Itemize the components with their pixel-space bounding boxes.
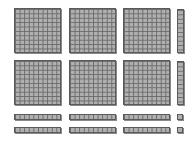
tens-rod [69,127,116,133]
ones-cube [177,114,183,120]
hundreds-flat [69,8,116,53]
hundreds-flat [123,60,170,105]
hundreds-flat [69,60,116,105]
tens-rod [123,127,170,133]
hundreds-flat [123,8,170,53]
ones-cube [177,127,183,133]
tens-rod [69,114,116,120]
hundreds-flat [14,60,61,105]
hundreds-flat [14,8,61,53]
tens-rod [177,61,184,105]
tens-rod [177,9,184,53]
tens-rod [14,114,61,120]
tens-rod [14,127,61,133]
tens-rod [123,114,170,120]
